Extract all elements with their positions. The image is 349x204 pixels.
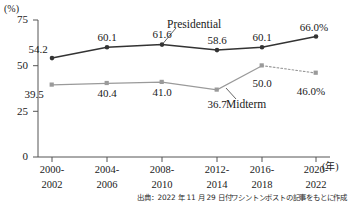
midterm-data-label-4: 50.0: [239, 78, 285, 89]
midterm-line-dashed: [262, 66, 316, 73]
x-tick-label-4: 2016- 2018: [234, 165, 290, 190]
x-tick-label-1-line1: 2004-: [79, 165, 135, 176]
y-tick-label-0: 0: [4, 151, 28, 162]
midterm-data-label-1: 40.4: [84, 88, 130, 99]
x-tick-label-1-line2: 2006: [79, 180, 135, 191]
midterm-series-label: Midterm: [226, 99, 266, 111]
y-tick-label-25: 25: [4, 106, 28, 117]
presidential-data-label-4: 60.1: [239, 32, 285, 43]
x-tick-label-0-line1: 2000-: [24, 165, 80, 176]
x-tick-label-0: 2000- 2002: [24, 165, 80, 190]
turnout-line-chart: (%) (年) 75 50 25 0 2000- 2002 2004- 2006…: [0, 0, 349, 204]
x-tick-label-5-line1: 2020-: [288, 165, 344, 176]
presidential-series-label: Presidential: [167, 19, 221, 31]
x-tick-label-2-line2: 2010: [134, 180, 190, 191]
x-tick-label-0-line2: 2002: [24, 180, 80, 191]
presidential-data-label-1: 60.1: [84, 32, 130, 43]
x-tick-label-5-line2: 2022: [288, 180, 344, 191]
x-tick-label-2-line1: 2008-: [134, 165, 190, 176]
x-tick-label-4-line1: 2016-: [234, 165, 290, 176]
source-note: 出典：2022 年 11 月 29 日付ワシントンポストの記事をもとに作成: [137, 191, 347, 202]
x-tick-label-2: 2008- 2010: [134, 165, 190, 190]
y-tick-label-50: 50: [4, 60, 28, 71]
presidential-data-label-5: 66.0%: [291, 22, 337, 33]
presidential-data-label-3: 58.6: [194, 35, 240, 46]
presidential-data-label-2: 61.6: [139, 29, 185, 40]
midterm-data-label-5: 46.0%: [288, 86, 334, 97]
x-tick-label-4-line2: 2018: [234, 180, 290, 191]
midterm-data-label-2: 41.0: [139, 87, 185, 98]
y-tick-label-75: 75: [4, 14, 28, 25]
midterm-data-label-0: 39.5: [11, 89, 57, 100]
x-tick-label-5: 2020- 2022: [288, 165, 344, 190]
presidential-data-label-0: 54.2: [15, 44, 61, 55]
x-tick-label-1: 2004- 2006: [79, 165, 135, 190]
